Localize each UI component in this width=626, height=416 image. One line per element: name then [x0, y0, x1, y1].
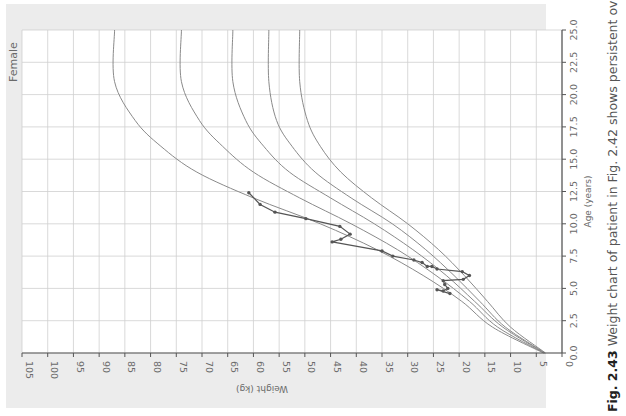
patient-data-point [446, 287, 449, 290]
age-tick-label: 12.5 [568, 181, 579, 202]
patient-data-point [258, 203, 261, 206]
weight-tick-label: 55 [281, 361, 292, 373]
weight-axis-label: Weight (kg) [236, 384, 288, 394]
age-tick-label: 22.5 [568, 52, 579, 73]
patient-data-point [412, 258, 415, 261]
weight-tick-label: 35 [384, 361, 395, 373]
age-tick-label: 10.0 [568, 213, 579, 234]
patient-data-point [247, 191, 250, 194]
weight-tick-label: 45 [332, 361, 343, 373]
weight-tick-label: 50 [306, 361, 317, 373]
patient-data-point [442, 289, 445, 292]
weight-tick-label: 85 [126, 361, 137, 373]
weight-tick-label: 90 [101, 361, 112, 373]
age-axis-label: Age (years) [583, 175, 593, 227]
weight-tick-label: 40 [358, 361, 369, 373]
weight-tick-label: 60 [255, 361, 266, 373]
age-tick-label: 7.5 [568, 249, 579, 264]
weight-tick-label: 30 [409, 361, 420, 373]
patient-data-point [435, 288, 438, 291]
patient-data-point [435, 267, 438, 270]
age-tick-label: 17.5 [568, 116, 579, 137]
age-tick-label: 5.0 [568, 281, 579, 296]
patient-data-point [304, 217, 307, 220]
weight-tick-label: 105 [24, 361, 35, 379]
weight-tick-label: 0 [564, 361, 575, 367]
patient-data-point [330, 240, 333, 243]
weight-tick-label: 25 [435, 361, 446, 373]
patient-data-point [380, 249, 383, 252]
patient-data-point [420, 261, 423, 264]
patient-data-point [462, 278, 465, 281]
age-tick-label: 15.0 [568, 149, 579, 170]
patient-data-point [443, 283, 446, 286]
patient-data-point [442, 279, 445, 282]
weight-tick-label: 10 [512, 361, 523, 373]
patient-data-point [426, 265, 429, 268]
patient-data-point [348, 232, 351, 235]
weight-tick-label: 70 [204, 361, 215, 373]
patient-data-point [448, 292, 451, 295]
age-tick-label: 0.0 [568, 345, 579, 360]
weight-chart: 0510152025303540455055606570758085909510… [0, 0, 626, 416]
weight-tick-label: 5 [538, 361, 549, 367]
weight-tick-label: 75 [178, 361, 189, 373]
patient-data-point [468, 274, 471, 277]
age-tick-label: 2.5 [568, 313, 579, 328]
weight-tick-label: 80 [152, 361, 163, 373]
patient-data-point [338, 225, 341, 228]
weight-tick-label: 20 [461, 361, 472, 373]
patient-data-point [339, 238, 342, 241]
patient-data-point [273, 210, 276, 213]
weight-tick-label: 100 [49, 361, 60, 379]
weight-tick-label: 95 [75, 361, 86, 373]
patient-data-point [430, 265, 433, 268]
patient-data-point [391, 254, 394, 257]
weight-tick-label: 15 [486, 361, 497, 373]
age-tick-label: 20.0 [568, 84, 579, 105]
age-tick-label: 25.0 [568, 19, 579, 40]
weight-tick-label: 65 [229, 361, 240, 373]
patient-data-point [461, 270, 464, 273]
